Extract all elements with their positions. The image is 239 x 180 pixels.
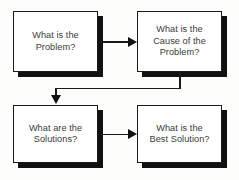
edge-solutions-to-best-line [98, 134, 129, 136]
edge-problem-to-cause-line [98, 41, 129, 43]
node-solutions[interactable]: What are the Solutions? [13, 105, 98, 163]
edge-problem-to-cause-arrowhead [128, 37, 137, 47]
node-best-solution[interactable]: What is the Best Solution? [137, 105, 222, 163]
edge-solutions-to-best-arrowhead [128, 129, 137, 139]
node-problem[interactable]: What is the Problem? [13, 11, 98, 72]
edge-cause-to-solutions-arrowhead [51, 95, 61, 104]
node-cause[interactable]: What is the Cause of the Problem? [137, 11, 222, 72]
flowchart-canvas: What is the Problem? What is the Cause o… [0, 0, 239, 180]
node-best-solution-label: What is the Best Solution? [148, 123, 212, 146]
node-cause-label: What is the Cause of the Problem? [151, 24, 208, 58]
node-problem-label: What is the Problem? [30, 30, 81, 53]
node-solutions-label: What are the Solutions? [27, 123, 84, 146]
edge-cause-to-solutions-horizontal [55, 88, 181, 90]
edge-cause-to-solutions-vertical-right [179, 72, 181, 89]
